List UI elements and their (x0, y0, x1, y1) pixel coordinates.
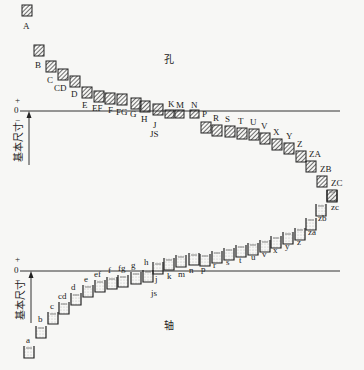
hole-zone-label: D (71, 89, 78, 99)
shaft-zone-label: s (226, 257, 230, 267)
hole-zone-u: U (249, 117, 259, 140)
hole-zone-label: U (250, 117, 257, 127)
shaft-zone-label: fg (118, 263, 126, 273)
shaft-zone-label: b (38, 314, 43, 324)
hole-zone-label: K (168, 99, 175, 109)
hole-zone-n: N (190, 100, 199, 118)
shaft-section: + 0 − 基本尺寸 轴 abccddeefffgghjkmnprstuvxyz… (14, 190, 340, 358)
hole-zone-label: E (82, 100, 88, 110)
shaft-zone-label: z (297, 237, 301, 247)
hole-zone-k: K (165, 99, 175, 118)
shaft-zone-label: r (213, 260, 216, 270)
arrow-up-icon (29, 271, 34, 278)
hole-zone-label: F (108, 105, 113, 115)
shaft-zone-label: e (84, 274, 88, 284)
hole-zone-zb: ZB (317, 164, 332, 187)
hole-zone-fg: FG (116, 94, 128, 117)
hole-zone-label: Z (297, 139, 303, 149)
shaft-zone-label: f (108, 265, 111, 275)
shaft-zone-ef: ef (94, 269, 105, 292)
hole-zone-a: A (22, 5, 32, 31)
shaft-zone-c: c (48, 301, 58, 324)
hole-zone-j: J (153, 104, 163, 130)
shaft-zone-label: zc (331, 202, 339, 212)
hole-zone-label: EF (92, 103, 103, 113)
hole-zone-x: X (272, 127, 282, 150)
shaft-zone-cd: cd (58, 291, 69, 314)
shaft-axis-plus: + (15, 254, 20, 264)
hole-zone-label: H (141, 114, 148, 124)
hole-zone-label: V (261, 121, 268, 131)
shaft-zone-label: a (26, 335, 30, 345)
hole-zone-c: C (46, 61, 56, 85)
shaft-axis-label: 基本尺寸 (14, 280, 26, 320)
hole-tolerance-zones: ABCCDDEEFFFGGHJKMNPRSTUVXYZZAZBZC (22, 5, 343, 201)
shaft-zone-label: ef (94, 269, 101, 279)
shaft-zone-n: n (189, 253, 199, 275)
shaft-zone-f: f (107, 265, 117, 289)
shaft-title: 轴 (164, 319, 174, 331)
hole-zone-label: ZB (320, 164, 332, 174)
shaft-zone-zc: zc (327, 190, 339, 212)
shaft-zone-y: y (283, 232, 293, 251)
shaft-zone-j: j (153, 262, 163, 284)
hole-zone-label: ZA (309, 149, 321, 159)
hole-zone-f: F (105, 93, 115, 115)
hole-zone-label: T (238, 116, 244, 126)
shaft-zone-m: m (176, 255, 186, 279)
shaft-zone-zb: zb (316, 204, 327, 223)
hole-section: + 0 − 基本尺寸 孔 ABCCDDEEFFFGGHJKMNPRSTUVXYZ… (12, 5, 343, 201)
shaft-zone-label: g (131, 260, 136, 270)
shaft-zone-t: t (236, 245, 246, 265)
hole-zone-label: G (130, 109, 137, 119)
shaft-zone-label: p (201, 264, 206, 274)
shaft-zone-e: e (83, 274, 93, 297)
shaft-zone-label: x (273, 245, 278, 255)
shaft-zone-a: a (24, 335, 34, 358)
hole-zone-label: P (202, 109, 207, 119)
hole-zone-p: P (201, 109, 211, 133)
hole-zone-h: H (140, 101, 150, 124)
hole-zone-b: B (34, 45, 44, 70)
hole-zone-label: C (47, 75, 53, 85)
shaft-zone-k: k (164, 258, 174, 281)
hole-zone-t: T (237, 116, 247, 139)
hole-zone-label: CD (54, 83, 67, 93)
hole-zone-label: S (225, 114, 230, 124)
shaft-zone-h: h (143, 257, 153, 282)
hole-zone-e: E (82, 87, 92, 110)
shaft-tolerance-zones: abccddeefffgghjkmnprstuvxyzzazbzc (24, 190, 339, 358)
hole-zone-v: V (260, 121, 270, 144)
shaft-js-label: js (150, 288, 158, 298)
hole-zone-z: Z (296, 139, 306, 162)
shaft-zone-label: v (262, 249, 267, 259)
shaft-zone-label: n (189, 265, 194, 275)
shaft-zone-label: d (71, 282, 76, 292)
hole-zone-label: R (213, 113, 219, 123)
hole-zone-label: Y (286, 131, 293, 141)
hole-zone-label: B (35, 60, 41, 70)
shaft-zone-x: x (271, 236, 281, 255)
hole-zone-label: FG (116, 107, 128, 117)
hole-title: 孔 (164, 54, 174, 65)
hole-zone-s: S (225, 114, 235, 137)
hole-zone-label: M (176, 100, 184, 110)
shaft-zone-g: g (131, 260, 141, 284)
shaft-zone-d: d (71, 282, 81, 305)
hole-zone-cd: CD (54, 69, 68, 93)
shaft-axis-zero: 0 (14, 265, 19, 275)
shaft-zone-fg: fg (118, 263, 128, 287)
shaft-zone-label: u (251, 252, 256, 262)
hole-axis-plus: + (15, 95, 20, 105)
shaft-zone-label: zb (318, 213, 327, 223)
shaft-zone-label: m (178, 269, 185, 279)
hole-axis-label: 基本尺寸 (12, 122, 24, 162)
shaft-zone-u: u (248, 243, 258, 262)
hole-zone-d: D (70, 76, 80, 99)
hole-zone-label: A (23, 21, 30, 31)
hole-zone-label: N (191, 100, 198, 110)
hole-zone-y: Y (284, 131, 294, 154)
shaft-zone-label: za (308, 227, 316, 237)
shaft-zone-label: c (50, 301, 54, 311)
shaft-zone-za: za (306, 218, 316, 237)
